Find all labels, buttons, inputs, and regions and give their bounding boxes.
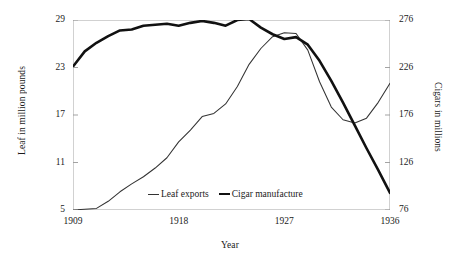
y-axis-left-tick-label: 11 xyxy=(39,157,65,167)
y-axis-left-title: Leaf in million pounds xyxy=(14,50,30,170)
y-axis-right-tick-label: 226 xyxy=(399,62,429,72)
legend-line-icon-leaf-exports xyxy=(148,194,159,195)
y-axis-right-tick-label: 76 xyxy=(399,204,429,214)
y-axis-right-title: Cigars in millions xyxy=(430,62,446,172)
y-axis-right-tick-label: 176 xyxy=(399,109,429,119)
x-axis-tick-label: 1927 xyxy=(262,216,306,226)
legend-line-icon-cigar-manufacture xyxy=(219,193,230,195)
legend-label-leaf-exports: Leaf exports xyxy=(161,189,209,199)
legend-item-cigar-manufacture: Cigar manufacture xyxy=(219,189,303,199)
y-axis-right-tick-label: 276 xyxy=(399,14,429,24)
x-axis-tick-label: 1918 xyxy=(157,216,201,226)
legend-item-leaf-exports: Leaf exports xyxy=(148,189,209,199)
chart-figure: Leaf in million pounds Cigars in million… xyxy=(0,0,460,263)
plot-area xyxy=(73,20,390,210)
y-axis-left-tick-label: 23 xyxy=(39,62,65,72)
y-axis-left-tick-label: 5 xyxy=(39,204,65,214)
y-axis-left-tick-label: 17 xyxy=(39,109,65,119)
x-axis-tick-label: 1909 xyxy=(51,216,95,226)
plot-frame xyxy=(73,20,390,210)
y-axis-left-tick-label: 29 xyxy=(39,14,65,24)
chart-legend: Leaf exports Cigar manufacture xyxy=(148,189,303,199)
x-axis-tick-label: 1936 xyxy=(368,216,412,226)
y-axis-right-tick-label: 126 xyxy=(399,157,429,167)
legend-label-cigar-manufacture: Cigar manufacture xyxy=(232,189,303,199)
x-axis-title: Year xyxy=(0,240,460,250)
